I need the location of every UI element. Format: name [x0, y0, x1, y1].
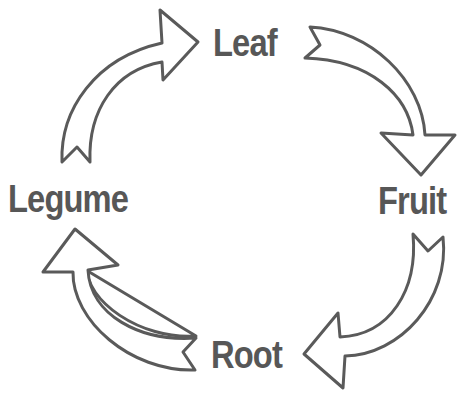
arrow-fruit-to-root [304, 234, 444, 388]
node-label-fruit: Fruit [378, 182, 446, 220]
node-label-root: Root [211, 336, 282, 374]
arrow-leaf-to-fruit [305, 27, 455, 175]
node-label-legume: Legume [8, 180, 128, 218]
cycle-diagram: Leaf Fruit Root Legume [0, 0, 460, 395]
node-label-leaf: Leaf [213, 24, 277, 62]
arrow-legume-to-leaf [62, 10, 198, 162]
